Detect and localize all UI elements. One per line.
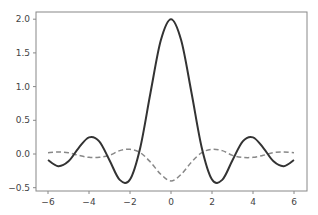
y-tick-label: 1.5 xyxy=(16,48,30,58)
x-tick-label: 2 xyxy=(209,197,215,207)
x-tick-label: 0 xyxy=(168,197,174,207)
dashed-series-line xyxy=(48,149,294,181)
axes-frame xyxy=(36,12,307,191)
y-tick-label: 1.0 xyxy=(16,82,31,92)
line-chart: −6−4−20246 −0.50.00.51.01.52.0 xyxy=(0,0,318,215)
y-tick-label: 0.5 xyxy=(16,115,30,125)
y-tick-label: 2.0 xyxy=(16,14,31,24)
x-tick-label: 4 xyxy=(250,197,256,207)
y-tick-label: 0.0 xyxy=(16,149,31,159)
series-layer xyxy=(48,19,294,183)
x-tick-label: −4 xyxy=(82,197,96,207)
y-axis-ticks: −0.50.00.51.01.52.0 xyxy=(8,14,36,193)
x-tick-label: −2 xyxy=(123,197,136,207)
x-tick-label: 6 xyxy=(291,197,297,207)
y-tick-label: −0.5 xyxy=(8,183,30,193)
x-tick-label: −6 xyxy=(41,197,55,207)
x-axis-ticks: −6−4−20246 xyxy=(41,191,297,207)
solid-series-line xyxy=(48,19,294,183)
